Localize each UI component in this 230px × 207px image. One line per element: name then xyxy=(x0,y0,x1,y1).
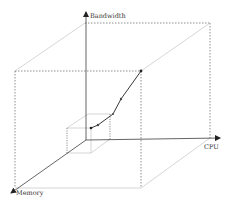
curve-point xyxy=(97,124,99,126)
small-box xyxy=(67,114,110,153)
curve-point xyxy=(120,98,122,100)
memory-axis xyxy=(11,140,86,193)
curve-point xyxy=(90,127,93,130)
bandwidth-label: Bandwidth xyxy=(90,12,126,20)
curve-point xyxy=(140,70,143,73)
cpu-label: CPU xyxy=(204,143,219,151)
large-box xyxy=(15,23,210,188)
axes xyxy=(11,12,220,193)
memory-label: Memory xyxy=(16,189,44,197)
scaling-curve xyxy=(90,70,143,130)
cpu-axis xyxy=(86,138,220,140)
scaling-diagram: Bandwidth CPU Memory xyxy=(0,0,230,207)
curve-point xyxy=(112,113,114,115)
